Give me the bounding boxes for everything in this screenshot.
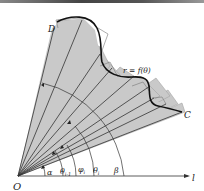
point-d-label: D xyxy=(47,24,55,34)
theta-prev-label: θi-1 xyxy=(60,167,71,177)
theta-label: θi xyxy=(93,166,100,176)
polar-axis xyxy=(18,174,190,178)
origin-label: O xyxy=(13,181,21,191)
phi-label: φi xyxy=(78,165,86,175)
alpha-label: α xyxy=(47,168,53,177)
polar-area-diagram: O l D C r = f(θ) α θi-1 φi θi β xyxy=(0,0,204,191)
beta-label: β xyxy=(113,166,119,175)
point-c-label: C xyxy=(184,110,191,120)
axis-label: l xyxy=(192,173,195,183)
curve-label: r = f(θ) xyxy=(123,66,151,75)
